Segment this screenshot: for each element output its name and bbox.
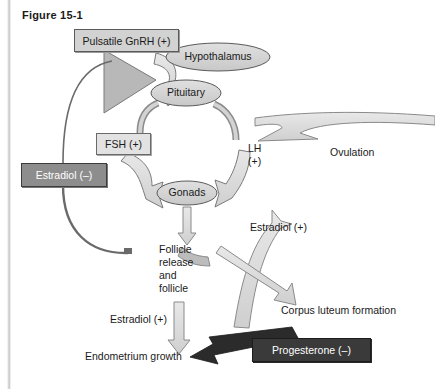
corpus-luteum-label: Corpus luteum formation	[281, 304, 396, 317]
gnrh-pulse-arrow	[104, 50, 156, 113]
gonads-ellipse	[157, 181, 217, 205]
pituitary-to-lh-band	[214, 104, 236, 140]
gonads-to-follicle-arrow	[178, 207, 196, 245]
hypothalamus-ellipse	[166, 43, 270, 71]
estradiol-negative-box: Estradiol (–)	[21, 163, 107, 187]
diagram-canvas	[0, 0, 435, 389]
estradiol-positive-lh-label: Estradiol (+)	[250, 221, 307, 234]
estradiol-positive-endometrium-label: Estradiol (+)	[110, 313, 167, 326]
lh-to-gonads-arrow	[215, 150, 250, 207]
endometrium-growth-label: Endometrium growth	[85, 350, 182, 363]
fsh-to-gonads-arrow	[121, 153, 163, 208]
ovulation-arrow	[255, 112, 435, 141]
lh-label: LH (+)	[248, 142, 261, 168]
progesterone-negative-box: Progesterone (–)	[252, 338, 371, 362]
estradiol-negative-feedback-curve-lower	[63, 185, 132, 254]
figure-container: Figure 15-1	[0, 0, 435, 389]
gnrh-box: Pulsatile GnRH (+)	[74, 29, 179, 52]
follicle-to-endometrium-arrow	[168, 302, 190, 354]
fsh-box: FSH (+)	[96, 133, 151, 155]
follicle-release-label: Follicle release and follicle	[159, 243, 193, 295]
pituitary-ellipse	[151, 80, 221, 106]
pituitary-to-fsh-band	[140, 103, 158, 133]
ovulation-label: Ovulation	[330, 146, 374, 159]
